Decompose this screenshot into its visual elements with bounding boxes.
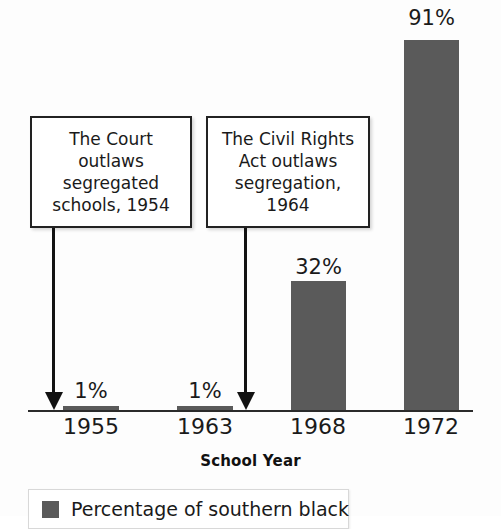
callout-civil-rights-act-text: The Civil Rights Act outlaws segregation… <box>216 128 360 216</box>
chart-legend: Percentage of southern black <box>28 489 349 529</box>
bar-value-1968: 32% <box>291 255 346 279</box>
callout-civil-rights-act: The Civil Rights Act outlaws segregation… <box>206 116 370 228</box>
x-tick-label-1955: 1955 <box>46 414 136 439</box>
x-tick-label-1972: 1972 <box>386 414 476 439</box>
callout-court-ruling: The Court outlaws segregated schools, 19… <box>30 116 192 228</box>
x-axis-title: School Year <box>0 452 501 470</box>
callout-court-ruling-text: The Court outlaws segregated schools, 19… <box>46 128 175 216</box>
legend-label: Percentage of southern black <box>71 498 349 520</box>
x-tick-label-1968: 1968 <box>273 414 363 439</box>
callout-court-ruling-arrow-icon <box>45 392 63 410</box>
callout-civil-rights-act-arrow-icon <box>237 392 255 410</box>
bar-1968 <box>291 281 346 410</box>
callout-civil-rights-act-arrow-shaft <box>244 228 247 392</box>
bar-value-1955: 1% <box>63 379 119 403</box>
legend-swatch-icon <box>42 501 59 518</box>
bar-1972 <box>404 40 459 410</box>
bar-value-1972: 91% <box>404 6 459 30</box>
x-tick-label-1963: 1963 <box>160 414 250 439</box>
x-axis-line <box>28 410 473 412</box>
callout-court-ruling-arrow-shaft <box>52 228 55 392</box>
bar-value-1963: 1% <box>177 379 233 403</box>
